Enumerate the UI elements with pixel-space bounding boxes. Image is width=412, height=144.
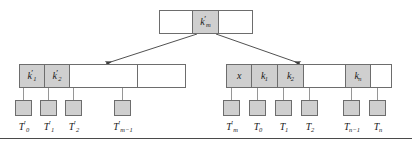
leaf-box[interactable] (40, 100, 57, 116)
left-cell-key-k2[interactable]: k′2 (45, 65, 70, 87)
leaf-label: Tn (362, 120, 394, 133)
leaf-label: T2 (294, 120, 326, 133)
right-cell-key-x[interactable]: x (227, 65, 252, 87)
root-cell-key-km[interactable]: k′m (193, 11, 218, 33)
right-cell-empty-tail[interactable] (371, 65, 391, 87)
right-child-node[interactable]: x k1 k2 kn (226, 64, 392, 88)
left-cell-empty-tail[interactable] (138, 65, 185, 87)
right-cell-key-k2[interactable]: k2 (278, 65, 304, 87)
right-cell-key-k1[interactable]: k1 (252, 65, 278, 87)
right-keyn-label: kn (354, 69, 361, 82)
leaf-box[interactable] (223, 100, 240, 116)
bottom-divider (0, 138, 412, 139)
leaf-box[interactable] (249, 100, 266, 116)
left-key1-label: k′1 (27, 69, 36, 82)
left-cell-key-k1[interactable]: k′1 (20, 65, 45, 87)
leaf-box[interactable] (65, 100, 82, 116)
right-key1-label: k1 (261, 69, 268, 82)
left-cell-empty-middle[interactable] (70, 65, 138, 87)
left-child-node[interactable]: k′1 k′2 (19, 64, 186, 88)
right-keyx-label: x (237, 69, 241, 82)
leaf-box[interactable] (114, 100, 131, 116)
right-key2-label: k2 (287, 69, 294, 82)
btree-split-figure: k′m k′1 k′2 x k1 k2 kn T′0 T′1 (0, 0, 412, 144)
leaf-label: T′m−1 (105, 120, 141, 133)
root-node[interactable]: k′m (159, 10, 253, 34)
left-key2-label: k′2 (52, 69, 61, 82)
leaf-box[interactable] (275, 100, 292, 116)
root-cell-empty-left[interactable] (160, 11, 193, 33)
leaf-box[interactable] (301, 100, 318, 116)
leaf-label: T′2 (58, 120, 90, 133)
root-key-label: k′m (200, 15, 211, 28)
right-cell-key-kn[interactable]: kn (346, 65, 371, 87)
leaf-box[interactable] (15, 100, 32, 116)
right-cell-empty-middle[interactable] (304, 65, 346, 87)
leaf-box[interactable] (343, 100, 360, 116)
root-cell-empty-right[interactable] (219, 11, 252, 33)
leaf-box[interactable] (369, 100, 386, 116)
